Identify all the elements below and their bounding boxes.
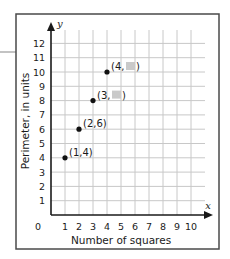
perimeter-chart: yx 012345678910123456789101112 (1,4)(2,6…: [0, 0, 230, 259]
y-axis-arrow-icon: [47, 22, 55, 31]
data-point-label: (4,): [111, 61, 140, 72]
x-tick-label: 9: [174, 221, 180, 232]
x-axis-title: Number of squares: [71, 234, 171, 246]
data-point: [90, 98, 95, 103]
y-tick-label: 5: [39, 138, 45, 149]
grid: [51, 30, 205, 215]
x-tick-label: 5: [118, 221, 124, 232]
x-tick-label: 4: [104, 221, 110, 232]
hidden-value-box: [126, 62, 135, 70]
chart-frame: [16, 14, 219, 249]
x-tick-label: 10: [185, 221, 197, 232]
y-tick-label: 11: [33, 52, 45, 63]
y-tick-label: 3: [39, 167, 45, 178]
data-point-label-suffix: ): [136, 61, 140, 72]
data-point: [104, 69, 109, 74]
x-tick-label: 7: [146, 221, 152, 232]
y-axis-title: Perimeter, in units: [19, 73, 31, 170]
y-tick-label: 2: [39, 181, 45, 192]
y-tick-label: 6: [39, 124, 45, 135]
axes: yx: [47, 18, 213, 219]
y-tick-label: 12: [33, 38, 45, 49]
y-axis-variable: y: [56, 18, 63, 29]
hidden-value-box: [112, 91, 121, 99]
x-tick-label: 8: [160, 221, 166, 232]
y-tick-label: 10: [33, 67, 45, 78]
y-tick-label: 4: [39, 152, 45, 163]
data-point-label-prefix: (4,: [111, 61, 124, 72]
data-point-label-suffix: ): [122, 90, 126, 101]
data-point-label: (3,): [97, 90, 126, 101]
data-point-label: (1,4): [69, 147, 93, 158]
x-axis-variable: x: [205, 200, 211, 211]
origin-label: 0: [35, 221, 41, 232]
x-axis-arrow-icon: [204, 211, 213, 219]
data-point: [76, 127, 81, 132]
y-tick-label: 1: [39, 195, 45, 206]
data-point: [62, 155, 67, 160]
data-point-label: (2,6): [83, 118, 107, 129]
data-point-label-prefix: (3,: [97, 90, 110, 101]
x-tick-label: 1: [62, 221, 68, 232]
x-tick-label: 3: [90, 221, 96, 232]
x-tick-label: 2: [76, 221, 82, 232]
y-tick-label: 7: [39, 109, 45, 120]
y-tick-label: 9: [39, 81, 45, 92]
y-tick-label: 8: [39, 95, 45, 106]
x-tick-label: 6: [132, 221, 138, 232]
data-points: (1,4)(2,6)(3,)(4,): [62, 61, 140, 160]
